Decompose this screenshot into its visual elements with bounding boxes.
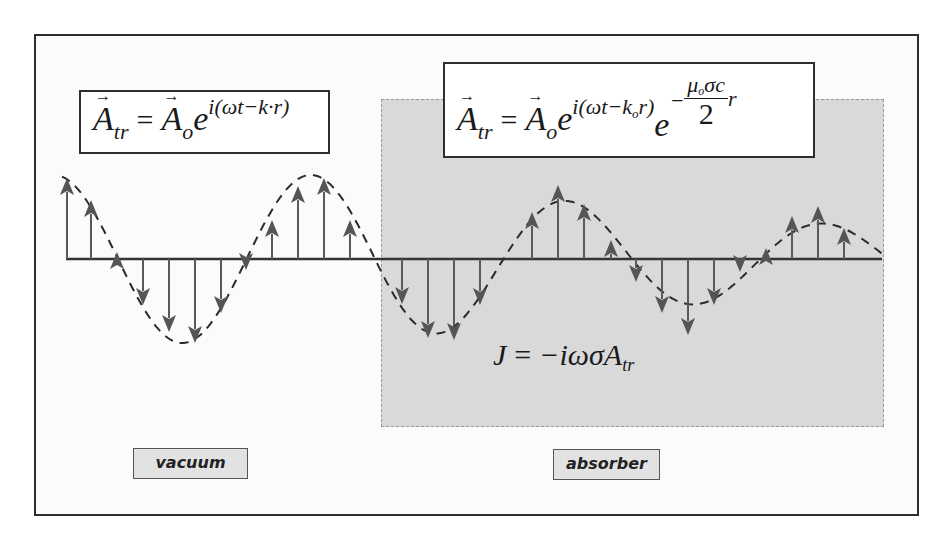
mu-symbol: μ (687, 72, 698, 97)
formula-damping-base: e (654, 106, 669, 143)
phase-exponent-tail: r) (638, 94, 654, 119)
formula-exponent: i(ωt−k·r) (208, 94, 289, 119)
formula-phase-exponent: i(ωt−kor) (572, 94, 654, 119)
current-rhs-subscript: tr (622, 355, 634, 375)
damping-sign: − (669, 88, 684, 113)
arrow-down-icon (733, 255, 747, 272)
absorber-formula-box: Atr=Aoei(ωt−kor)e−μoσc2r (443, 62, 815, 158)
formula-equals: = (136, 103, 153, 136)
damping-numerator: μoσc (684, 72, 728, 99)
absorber-formula: Atr=Aoei(ωt−kor)e−μoσc2r (457, 98, 737, 155)
formula-exp-base: e (193, 100, 208, 137)
formula-lhs: A (93, 100, 114, 138)
arrow-up-icon (110, 252, 124, 269)
formula-amplitude-subscript: o (182, 119, 193, 144)
formula-lhs-subscript: tr (478, 119, 493, 144)
phase-exponent-head: i(ωt−k (572, 94, 632, 119)
vacuum-formula-box: Atr=Aoei(ωt−k·r) (79, 90, 330, 154)
current-equals: = (514, 338, 531, 371)
formula-amplitude: A (161, 100, 182, 138)
diagram-canvas: Atr=Aoei(ωt−k·r) Atr=Aoei(ωt−kor)e−μoσc2… (0, 0, 951, 541)
vacuum-label: vacuum (133, 448, 248, 479)
formula-amplitude-subscript: o (546, 119, 557, 144)
damping-denominator: 2 (684, 99, 728, 129)
absorber-label: absorber (553, 449, 660, 480)
formula-exp-base: e (557, 100, 572, 137)
formula-lhs-subscript: tr (114, 119, 129, 144)
current-lhs: J (493, 338, 506, 371)
phase-exponent-subscript: o (632, 106, 639, 121)
formula-amplitude: A (525, 100, 546, 138)
current-density-formula: J=−iωσAtr (493, 338, 634, 372)
arrow-up-icon (759, 248, 773, 265)
vacuum-formula: Atr=Aoei(ωt−k·r) (93, 100, 289, 138)
current-rhs: −iωσA (539, 338, 622, 371)
formula-equals: = (500, 103, 517, 136)
arrow-down-icon (239, 253, 253, 270)
field-arrows (60, 178, 851, 343)
formula-lhs: A (457, 100, 478, 138)
damping-fraction: μoσc2 (684, 72, 728, 129)
sigma-c: σc (704, 72, 725, 97)
mu-subscript: o (698, 84, 704, 98)
damping-r: r (728, 86, 737, 111)
